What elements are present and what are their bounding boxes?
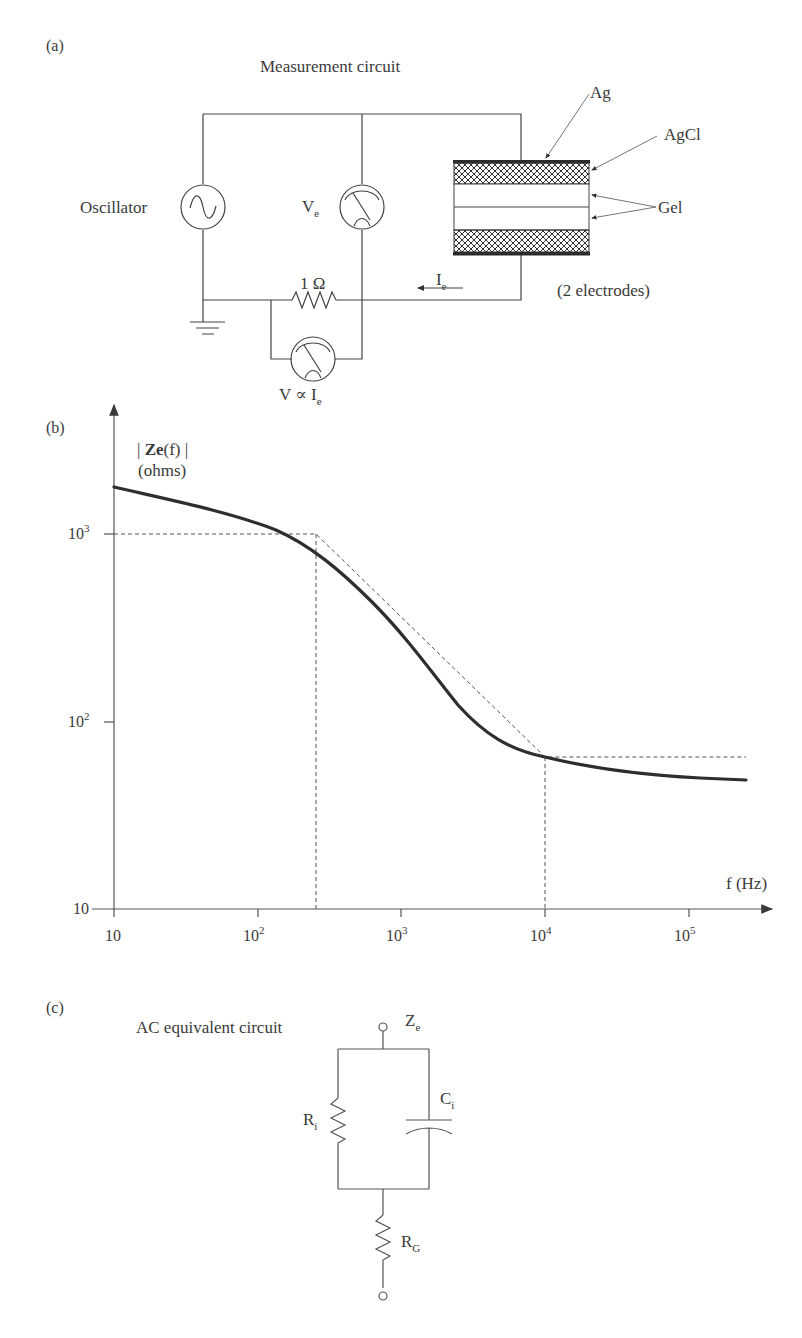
- rg-label-main: R: [401, 1232, 412, 1251]
- current-meter-label: V ∝ Ie: [279, 386, 322, 403]
- x-tick-100000-exp: 5: [690, 924, 696, 936]
- resistor-label: 1 Ω: [300, 275, 325, 292]
- resistor-rg-icon: [376, 1215, 390, 1288]
- y-tick-1000: 103: [68, 526, 90, 542]
- ci-label: Ci: [440, 1090, 454, 1107]
- current-meter-label-main: V ∝ I: [279, 385, 317, 404]
- resistor-ri-icon: [331, 1098, 345, 1189]
- y-axis-label: | Ze(f) |: [137, 441, 188, 458]
- y-tick-100-base: 10: [68, 713, 84, 730]
- measurement-circuit-title: Measurement circuit: [260, 58, 400, 75]
- y-axis-label-rest: (f): [164, 440, 181, 459]
- y-tick-1000-exp: 3: [84, 522, 90, 534]
- oscillator-label: Oscillator: [80, 199, 147, 216]
- rg-label-sub: G: [412, 1242, 420, 1254]
- x-tick-100000: 105: [674, 928, 696, 944]
- terminal-top-icon: [379, 1023, 387, 1031]
- terminal-bottom-icon: [379, 1292, 387, 1300]
- current-label-main: I: [436, 270, 442, 289]
- electrode-count-label: (2 electrodes): [557, 282, 650, 299]
- ac-circuit-title: AC equivalent circuit: [136, 1019, 282, 1036]
- ri-label: Ri: [303, 1111, 317, 1128]
- y-ticks: [104, 534, 114, 722]
- ri-label-main: R: [303, 1110, 314, 1129]
- panel-a-label: (a): [46, 38, 64, 54]
- ve-label-main: V: [302, 197, 314, 216]
- current-label: Ie: [436, 271, 447, 288]
- ri-label-sub: i: [314, 1120, 317, 1132]
- ac-equivalent-circuit: [331, 1023, 452, 1300]
- x-tick-10000-base: 10: [530, 927, 546, 944]
- y-tick-100-exp: 2: [84, 710, 90, 722]
- x-ticks: [114, 909, 689, 917]
- x-tick-10000-exp: 4: [546, 924, 552, 936]
- ground-icon: [190, 300, 225, 334]
- ze-label-sub: e: [415, 1021, 420, 1033]
- x-tick-10: 10: [105, 928, 121, 944]
- y-tick-100: 102: [68, 714, 90, 730]
- x-tick-100-exp: 2: [259, 924, 265, 936]
- x-axis-label: f (Hz): [726, 875, 767, 892]
- ci-label-main: C: [440, 1089, 451, 1108]
- gel-label: Gel: [658, 199, 683, 216]
- ci-label-sub: i: [451, 1099, 454, 1111]
- impedance-curve: [114, 487, 746, 780]
- current-meter-label-sub: e: [317, 395, 322, 407]
- ze-label: Ze: [405, 1012, 420, 1029]
- capacitor-ci-icon: [406, 1120, 452, 1189]
- y-axis-label-bold: Ze: [145, 440, 164, 459]
- impedance-chart: [92, 405, 772, 917]
- x-tick-1000-exp: 3: [402, 924, 408, 936]
- panel-b-label: (b): [46, 420, 65, 436]
- agcl-label: AgCl: [664, 126, 701, 143]
- x-tick-100000-base: 10: [674, 927, 690, 944]
- y-tick-1000-base: 10: [68, 525, 84, 542]
- ve-label-sub: e: [314, 207, 319, 219]
- x-tick-100: 102: [243, 928, 265, 944]
- electrode-stack: [453, 160, 590, 256]
- x-tick-100-base: 10: [243, 927, 259, 944]
- ze-label-main: Z: [405, 1011, 415, 1030]
- rg-label: RG: [401, 1233, 420, 1250]
- x-tick-10000: 104: [530, 928, 552, 944]
- y-tick-10: 10: [73, 901, 89, 917]
- current-label-sub: e: [442, 280, 447, 292]
- ve-label: Ve: [302, 198, 319, 215]
- panel-c-label: (c): [46, 1000, 64, 1016]
- ag-label: Ag: [590, 84, 611, 101]
- y-axis-units: (ohms): [138, 462, 186, 479]
- asymptote-lines: [114, 534, 746, 909]
- resistor-icon: [292, 292, 340, 308]
- x-tick-1000: 103: [386, 928, 408, 944]
- x-tick-1000-base: 10: [386, 927, 402, 944]
